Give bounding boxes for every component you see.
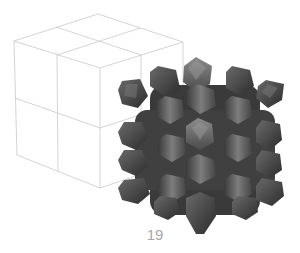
polyhedra-lattice: [118, 57, 284, 234]
figure-illustration: [0, 0, 300, 253]
figure-number-label: 19: [140, 226, 170, 243]
